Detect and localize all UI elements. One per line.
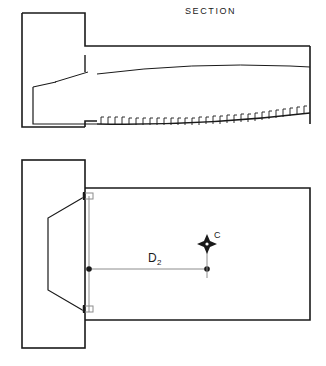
centroid-label-c: C (214, 230, 221, 240)
page-background (0, 0, 326, 366)
engineering-drawing-page: SECTION (0, 0, 326, 366)
dimension-origin-dot (86, 266, 92, 272)
section-title: SECTION (185, 6, 236, 16)
technical-drawing-canvas: SECTION (0, 0, 326, 366)
dimension-label-subscript: 2 (157, 258, 162, 267)
dimension-label-d: D (148, 251, 157, 265)
